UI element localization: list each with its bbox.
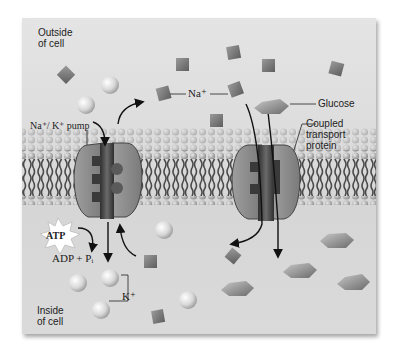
adp-label: ADP + Pᵢ: [52, 253, 93, 264]
glucose-inside: [221, 233, 370, 296]
inside-of-cell-label: Inside of cell: [37, 305, 64, 327]
potassium-ions-outside: [77, 76, 119, 114]
atp-label: ATP: [46, 230, 65, 241]
potassium-label: K⁺: [122, 291, 136, 302]
potassium-ions-inside: [69, 221, 197, 319]
sodium-potassium-pump: [74, 143, 142, 219]
sodium-ions-outside: [57, 45, 345, 127]
outside-label-line2: of cell: [38, 38, 72, 49]
pump-label: Na⁺/ K⁺ pump: [30, 120, 89, 131]
membrane-transport-diagram: [0, 0, 394, 353]
glucose-molecule: [254, 99, 289, 114]
coupled-transport-label: Coupled transport protein: [306, 118, 345, 151]
glucose-label: Glucose: [318, 98, 355, 109]
inside-label-line1: Inside: [37, 305, 64, 316]
coupled-label-line3: protein: [306, 140, 345, 151]
inside-label-line2: of cell: [37, 316, 64, 327]
outside-of-cell-label: Outside of cell: [38, 27, 72, 49]
outside-label-line1: Outside: [38, 27, 72, 38]
sodium-label: Na⁺: [188, 88, 207, 99]
coupled-label-line1: Coupled: [306, 118, 345, 129]
coupled-label-line2: transport: [306, 129, 345, 140]
coupled-transport-protein: [232, 145, 300, 221]
